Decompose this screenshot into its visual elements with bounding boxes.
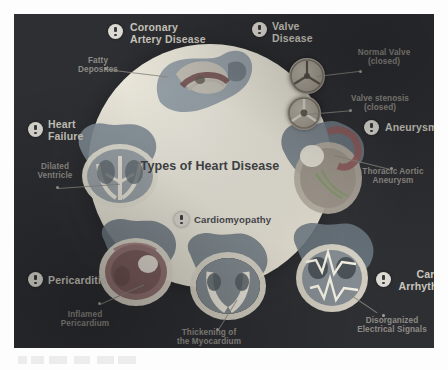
footer-remnant: [18, 356, 168, 364]
annotation-dilated-ventricle: Dilated Ventricle: [22, 162, 88, 181]
alert-icon-coronary-artery-disease[interactable]: [108, 24, 123, 39]
page-title: Types of Heart Disease: [134, 160, 286, 173]
page-root: Coronary Artery Disease Valve Disease An…: [0, 0, 448, 370]
alert-icon-heart-failure[interactable]: [28, 122, 43, 137]
annotation-disorganized-electrical-signals: Disorganized Electrical Signals: [350, 316, 434, 335]
annotation-thoracic-aortic-aneurysm: Thoracic Aortic Aneurysm: [352, 167, 434, 186]
disease-label-aneurysm[interactable]: Aneurysm: [385, 122, 434, 134]
disease-label-cardiomyopathy: Cardiomyopathy: [194, 214, 271, 225]
alert-icon-valve-disease[interactable]: [252, 22, 267, 37]
annotation-fatty-deposites: Fatty Deposites: [66, 56, 130, 75]
disease-label-pericarditis[interactable]: Pericarditis: [48, 275, 128, 287]
disease-label-cardiac-arrhythmia[interactable]: Cardiac Arrhythmia: [396, 269, 434, 292]
disease-label-valve-disease[interactable]: Valve Disease: [272, 21, 334, 44]
disease-item-cardiomyopathy[interactable]: Cardiomyopathy: [174, 212, 271, 227]
annotation-valve-stenosis: Valve stenosis (closed): [339, 94, 421, 113]
alert-icon-cardiomyopathy[interactable]: [174, 212, 189, 227]
alert-icon-pericarditis[interactable]: [28, 272, 43, 287]
disease-label-heart-failure[interactable]: Heart Failure: [48, 119, 110, 142]
annotation-inflamed-pericardium: Inflamed Pericardium: [44, 310, 126, 329]
leader-dot-normal-valve: [359, 70, 362, 73]
annotation-normal-valve: Normal Valve (closed): [345, 48, 423, 67]
alert-icon-aneurysm[interactable]: [364, 120, 379, 135]
disease-label-coronary-artery-disease[interactable]: Coronary Artery Disease: [130, 22, 226, 45]
annotation-thickening-of-the-myocardium: Thickening of the Myocardium: [162, 328, 256, 347]
pericarditis-illustration: [86, 214, 188, 314]
alert-icon-cardiac-arrhythmia[interactable]: [376, 272, 391, 287]
heart-disease-infographic: Coronary Artery Disease Valve Disease An…: [14, 14, 434, 348]
